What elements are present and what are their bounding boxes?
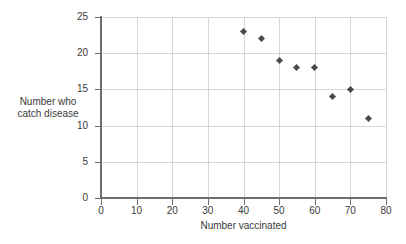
x-axis-tick-label: 30 xyxy=(193,206,223,216)
y-axis-tick-label: 25 xyxy=(58,12,88,22)
y-axis-tick-label: 0 xyxy=(58,193,88,203)
plot-area xyxy=(101,17,386,198)
gridline-horizontal xyxy=(101,17,386,18)
gridline-horizontal xyxy=(101,89,386,90)
data-point xyxy=(347,86,354,93)
x-axis-title: Number vaccinated xyxy=(101,220,386,232)
gridline-vertical xyxy=(350,17,351,198)
x-axis-tick-label: 20 xyxy=(157,206,187,216)
y-axis-tick xyxy=(95,17,101,18)
y-axis-tick xyxy=(95,53,101,54)
gridline-vertical xyxy=(137,17,138,198)
x-axis-tick-label: 60 xyxy=(300,206,330,216)
gridline-vertical xyxy=(386,17,387,198)
y-axis-tick xyxy=(95,89,101,90)
x-axis-tick-label: 80 xyxy=(371,206,401,216)
y-axis-tick xyxy=(95,162,101,163)
data-point xyxy=(240,28,247,35)
y-axis-tick-label: 20 xyxy=(58,48,88,58)
y-axis-line xyxy=(100,16,102,199)
gridline-vertical xyxy=(315,17,316,198)
gridline-vertical xyxy=(208,17,209,198)
y-axis-title: Number whocatch disease xyxy=(4,96,92,120)
x-axis-tick-label: 70 xyxy=(335,206,365,216)
gridline-horizontal xyxy=(101,53,386,54)
gridline-horizontal xyxy=(101,126,386,127)
data-point xyxy=(365,115,372,122)
y-axis-title-line-1: Number who xyxy=(4,96,92,108)
data-point xyxy=(329,93,336,100)
x-axis-tick-label: 50 xyxy=(264,206,294,216)
data-point xyxy=(276,57,283,64)
y-axis-title-line-2: catch disease xyxy=(4,108,92,120)
gridline-vertical xyxy=(244,17,245,198)
y-axis-tick-label: 5 xyxy=(58,157,88,167)
y-axis-tick-label: 10 xyxy=(58,121,88,131)
x-axis-tick-label: 0 xyxy=(86,206,116,216)
data-point xyxy=(258,35,265,42)
scatter-plot-figure: Number whocatch disease Number vaccinate… xyxy=(0,0,406,244)
data-point xyxy=(293,64,300,71)
gridline-vertical xyxy=(279,17,280,198)
y-axis-tick-label: 15 xyxy=(58,84,88,94)
y-axis-tick xyxy=(95,126,101,127)
x-axis-tick-label: 40 xyxy=(229,206,259,216)
gridline-vertical xyxy=(172,17,173,198)
y-axis-tick xyxy=(95,198,101,199)
gridline-horizontal xyxy=(101,162,386,163)
x-axis-tick-label: 10 xyxy=(122,206,152,216)
data-point xyxy=(311,64,318,71)
